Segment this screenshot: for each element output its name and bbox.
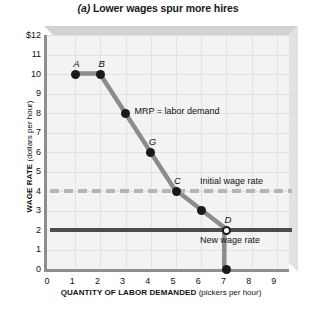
data-point	[121, 109, 130, 118]
plot-bevel-top	[44, 26, 298, 35]
new-wage-rate-label: New wage rate	[200, 235, 260, 245]
data-point-label-B: B	[98, 58, 104, 69]
x-tick-label: 5	[163, 277, 183, 286]
x-tick-label: 6	[188, 277, 208, 286]
x-tick-label: 7	[213, 277, 233, 286]
data-point-B	[96, 70, 105, 79]
data-point-A	[71, 70, 80, 79]
demand-curve	[47, 35, 289, 269]
chart-figure: (a) Lower wages spur more hires WAGE RAT…	[0, 0, 316, 311]
data-point-label-G: G	[149, 136, 156, 147]
initial-wage-rate-label: Initial wage rate	[200, 176, 263, 186]
data-point-label-D: D	[224, 214, 231, 225]
data-point-C	[172, 187, 181, 196]
data-point-label-A: A	[73, 58, 79, 69]
data-point-G	[146, 148, 155, 157]
plot-bevel-right	[289, 26, 298, 272]
new-wage-rate-line	[50, 228, 292, 232]
x-tick-label: 0	[37, 277, 57, 286]
x-tick-label: 3	[113, 277, 133, 286]
x-tick-label: 4	[138, 277, 158, 286]
plot-shell: Initial wage rateNew wage rateABGCDMRP =…	[44, 26, 298, 272]
curve-annotation: MRP = labor demand	[134, 106, 219, 116]
x-tick-label: 9	[264, 277, 284, 286]
data-point-D	[222, 226, 231, 235]
x-tick-label: 1	[62, 277, 82, 286]
data-point	[197, 206, 206, 215]
x-tick-label: 2	[87, 277, 107, 286]
data-point-label-C: C	[174, 175, 181, 186]
x-tick-label: 8	[239, 277, 259, 286]
plot-area: Initial wage rateNew wage rateABGCDMRP =…	[44, 35, 289, 272]
data-point	[222, 265, 231, 274]
